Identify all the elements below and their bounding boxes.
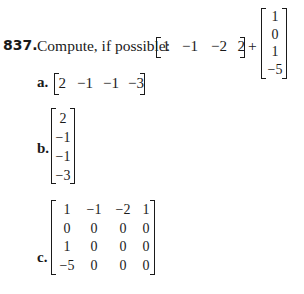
option-label: c. [37,249,47,266]
option-label: a. [37,74,48,91]
matrix-cell: 0 [79,238,109,257]
right-bracket [282,8,287,79]
matrix-cell: −1 [66,75,93,92]
right-bracket [240,37,245,58]
matrix-cell: −2 [198,38,227,55]
matrix-cell: 0 [109,257,137,276]
plus-operator: + [248,37,257,55]
matrix-cell: 0 [109,220,137,239]
problem-number: 837. [3,37,38,53]
option-label: b. [37,140,49,157]
matrix-cell: 1 [160,38,170,55]
problem-prompt: Compute, if possible: [37,37,170,55]
right-bracket [150,200,155,275]
matrix-cell: −1 [170,38,198,55]
matrix-cell: −2 [109,201,137,220]
matrix-cell: −1 [93,75,119,92]
matrix-cell: 2 [57,75,66,92]
matrix-cell: 0 [79,220,109,239]
matrix-cell: 0 [79,257,109,276]
right-bracket [140,73,145,95]
matrix-cell: 0 [55,220,79,239]
matrix-cell: 0 [109,238,137,257]
matrix-cell: −1 [79,201,109,220]
matrix-cell: 1 [55,201,79,220]
right-bracket [70,108,75,184]
matrix-cell: −5 [55,257,79,276]
matrix-cell: 1 [55,238,79,257]
